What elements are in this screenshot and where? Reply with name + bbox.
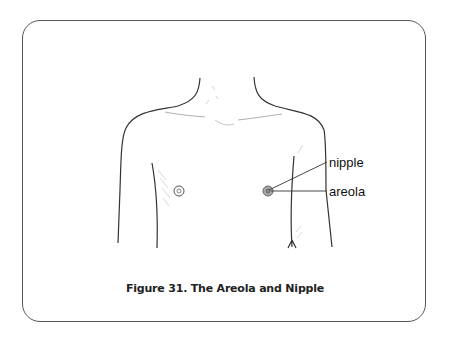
nipple-label: nipple [329,155,364,170]
left-shoulder-outline [118,78,200,243]
right-arm-line [288,156,296,248]
areola-label: areola [329,184,365,199]
nipple-leader-line [269,162,327,190]
figure-caption: Figure 31. The Areola and Nipple [0,282,450,295]
left-nipple [177,189,181,193]
left-areola [174,186,184,196]
left-arm-line [152,163,157,248]
